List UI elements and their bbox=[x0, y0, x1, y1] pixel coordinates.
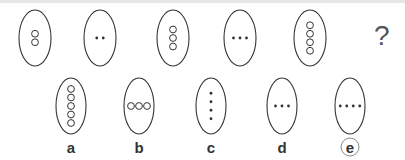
dot-mark bbox=[239, 37, 242, 40]
ellipse-outline bbox=[124, 78, 154, 134]
dot-mark bbox=[245, 37, 248, 40]
small-circle-mark bbox=[68, 86, 75, 93]
small-circle-mark bbox=[307, 22, 314, 29]
dot-mark bbox=[232, 37, 235, 40]
option-figure-c[interactable] bbox=[196, 78, 226, 134]
dot-mark bbox=[339, 105, 342, 108]
option-label-b[interactable]: b bbox=[129, 139, 149, 156]
small-circle-mark bbox=[307, 30, 314, 37]
ellipse-outline bbox=[56, 78, 86, 134]
dot-mark bbox=[210, 117, 213, 120]
ellipse-outline bbox=[294, 10, 326, 66]
sequence-figure-4 bbox=[224, 10, 256, 66]
ellipse-outline bbox=[196, 78, 226, 134]
dot-mark bbox=[210, 100, 213, 103]
small-circle-mark bbox=[68, 120, 75, 127]
question-mark: ? bbox=[374, 20, 390, 52]
small-circle-mark bbox=[128, 103, 135, 110]
option-label-c[interactable]: c bbox=[201, 139, 221, 156]
option-figure-d[interactable] bbox=[267, 78, 297, 134]
dot-mark bbox=[102, 37, 105, 40]
ellipse-outline bbox=[19, 10, 51, 66]
option-label-d[interactable]: d bbox=[272, 139, 292, 156]
small-circle-mark bbox=[170, 35, 177, 42]
small-circle-mark bbox=[32, 39, 39, 46]
option-figure-e[interactable] bbox=[335, 78, 365, 134]
small-circle-mark bbox=[68, 103, 75, 110]
sequence-figure-3 bbox=[157, 10, 189, 66]
pattern-figure bbox=[0, 0, 405, 160]
small-circle-mark bbox=[170, 43, 177, 50]
dot-mark bbox=[281, 105, 284, 108]
dot-mark bbox=[210, 92, 213, 95]
dot-mark bbox=[352, 105, 355, 108]
small-circle-mark bbox=[136, 103, 143, 110]
option-label-a[interactable]: a bbox=[61, 139, 81, 156]
option-label-e[interactable]: e bbox=[340, 139, 360, 156]
sequence-figure-1 bbox=[19, 10, 51, 66]
small-circle-mark bbox=[170, 26, 177, 33]
sequence-figure-5 bbox=[294, 10, 326, 66]
small-circle-mark bbox=[32, 30, 39, 37]
sequence-row bbox=[19, 10, 326, 66]
dot-mark bbox=[345, 105, 348, 108]
dot-mark bbox=[274, 105, 277, 108]
small-circle-mark bbox=[307, 47, 314, 54]
dot-mark bbox=[95, 37, 98, 40]
dot-mark bbox=[287, 105, 290, 108]
sequence-figure-2 bbox=[84, 10, 116, 66]
small-circle-mark bbox=[144, 103, 151, 110]
ellipse-outline bbox=[157, 10, 189, 66]
dot-mark bbox=[210, 109, 213, 112]
small-circle-mark bbox=[307, 39, 314, 46]
option-figure-b[interactable] bbox=[124, 78, 154, 134]
small-circle-mark bbox=[68, 111, 75, 118]
ellipse-outline bbox=[84, 10, 116, 66]
small-circle-mark bbox=[68, 94, 75, 101]
option-figure-a[interactable] bbox=[56, 78, 86, 134]
dot-mark bbox=[358, 105, 361, 108]
